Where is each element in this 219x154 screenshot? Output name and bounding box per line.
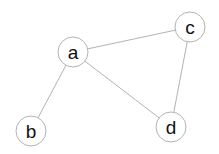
node-d: d [156,112,186,142]
graph-diagram: a b c d [0,0,219,154]
node-b: b [16,116,46,146]
node-d-label: d [166,117,177,138]
node-c: c [175,12,205,42]
node-a: a [58,37,88,67]
node-a-label: a [68,42,79,63]
node-c-label: c [185,17,195,38]
edge-a-c [73,27,190,52]
node-b-label: b [26,121,37,142]
edge-a-d [73,52,171,127]
